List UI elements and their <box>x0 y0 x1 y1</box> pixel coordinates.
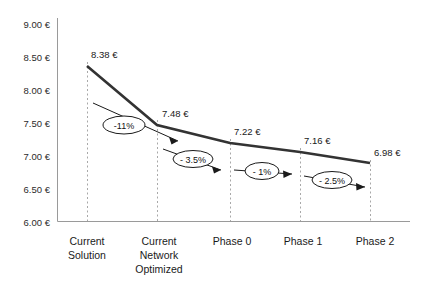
category-label-line: Phase 0 <box>213 235 252 247</box>
series-cost <box>87 66 370 163</box>
y-tick-label: 8.00 € <box>24 85 51 96</box>
annotation-arrow-head <box>356 183 365 191</box>
y-tick-label: 9.00 € <box>24 19 51 30</box>
annotation-arrow-head <box>283 171 292 179</box>
annotation-label: - 3.5% <box>180 155 206 165</box>
x-axis-category-labels: Current Solution Current Network Optimiz… <box>68 235 394 275</box>
point-label: 8.38 € <box>91 49 118 60</box>
annotation-arrow-head <box>169 137 178 145</box>
y-tick-label: 6.50 € <box>24 184 51 195</box>
category-label-current-network-optimized: Current Network Optimized <box>135 235 182 275</box>
category-label-line: Current <box>69 235 104 247</box>
point-label: 7.48 € <box>162 108 189 119</box>
category-label-line: Solution <box>68 249 106 261</box>
category-label-phase-0: Phase 0 <box>213 235 252 247</box>
y-axis-tick-labels: 9.00 € 8.50 € 8.00 € 7.50 € 7.00 € 6.50 … <box>24 19 51 228</box>
category-label-phase-1: Phase 1 <box>284 235 323 247</box>
annotation-minus-3-5: - 3.5% <box>163 149 221 174</box>
annotation-label: - 2.5% <box>319 176 345 186</box>
annotation-minus-2-5: - 2.5% <box>304 172 365 191</box>
category-label-line: Network <box>140 249 179 261</box>
category-label-current-solution: Current Solution <box>68 235 106 261</box>
point-label: 7.16 € <box>304 135 331 146</box>
annotation-label: -11% <box>114 121 134 131</box>
cost-reduction-line-chart: 9.00 € 8.50 € 8.00 € 7.50 € 7.00 € 6.50 … <box>0 0 421 292</box>
category-label-line: Phase 1 <box>284 235 323 247</box>
point-label: 7.22 € <box>234 126 261 137</box>
annotation-label: - 1% <box>253 167 272 177</box>
annotation-arrow-head <box>212 167 221 174</box>
chart-canvas: 9.00 € 8.50 € 8.00 € 7.50 € 7.00 € 6.50 … <box>0 0 421 292</box>
category-label-line: Optimized <box>135 263 182 275</box>
category-label-phase-2: Phase 2 <box>356 235 395 247</box>
data-point-labels: 8.38 € 7.48 € 7.22 € 7.16 € 6.98 € <box>91 49 401 158</box>
y-tick-label: 7.50 € <box>24 118 51 129</box>
annotation-minus-1: - 1% <box>234 163 292 180</box>
category-label-line: Phase 2 <box>356 235 395 247</box>
y-tick-label: 7.00 € <box>24 151 51 162</box>
y-tick-label: 6.00 € <box>24 217 51 228</box>
category-label-line: Current <box>141 235 176 247</box>
y-tick-label: 8.50 € <box>24 52 51 63</box>
point-label: 6.98 € <box>374 147 401 158</box>
series-line-path <box>87 66 370 163</box>
